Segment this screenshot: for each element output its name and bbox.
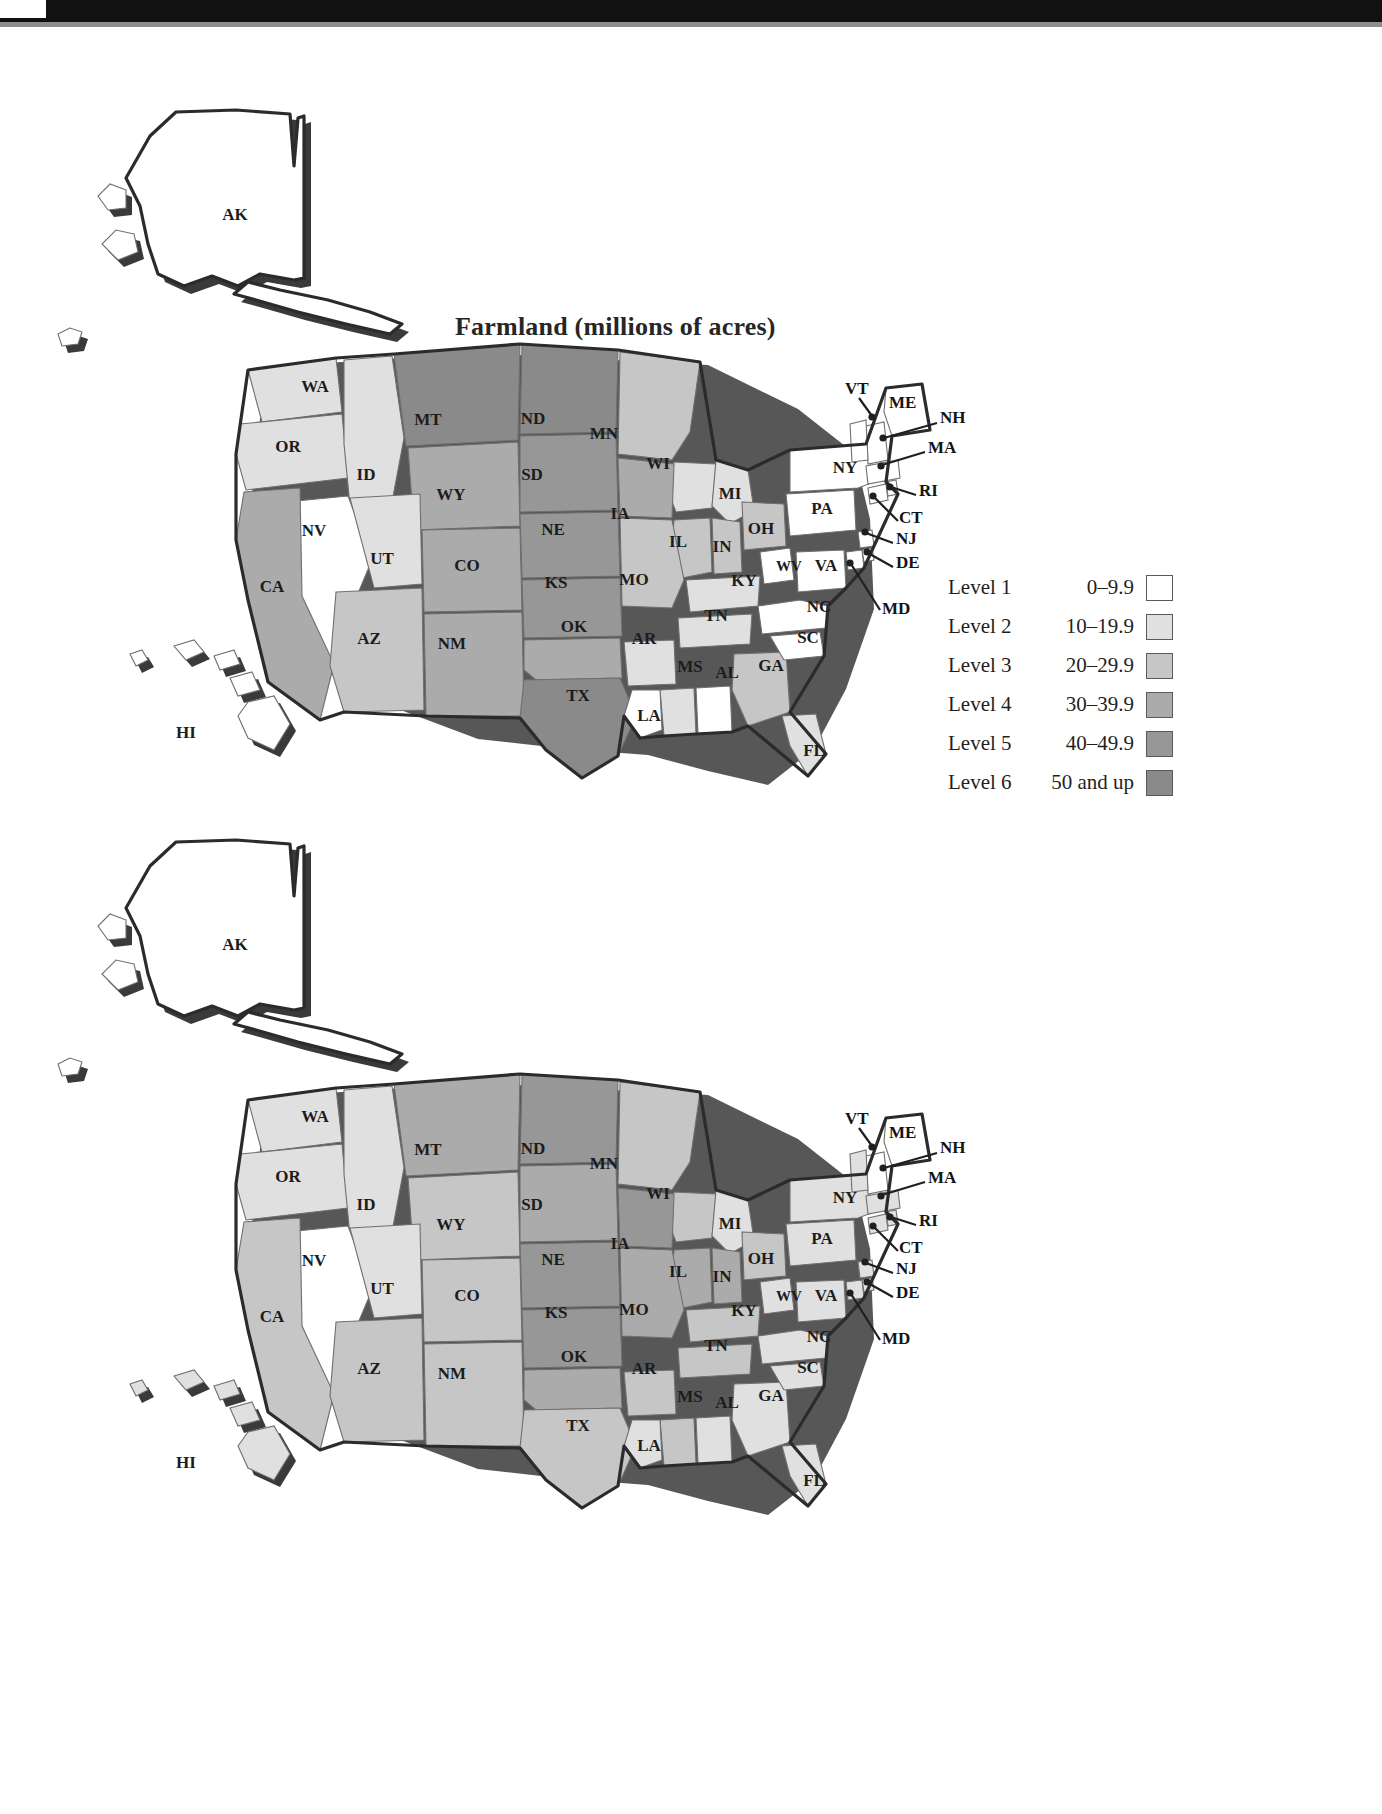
state-AK-landuse[interactable]: AK <box>58 840 409 1083</box>
svg-text:MI: MI <box>719 1214 742 1233</box>
state-label-CT: CT <box>899 1238 923 1257</box>
svg-text:NC: NC <box>807 1327 832 1346</box>
state-label-AK: AK <box>222 935 248 954</box>
svg-text:MS: MS <box>677 1387 703 1406</box>
svg-text:CO: CO <box>454 1286 480 1305</box>
svg-text:LA: LA <box>637 1436 661 1455</box>
svg-text:KY: KY <box>731 1301 757 1320</box>
svg-text:WY: WY <box>436 1215 465 1234</box>
svg-text:WA: WA <box>301 1107 329 1126</box>
svg-text:NE: NE <box>541 1250 565 1269</box>
figure-landuse: Land Used for Farming (%) AK <box>0 810 1382 1810</box>
svg-text:NM: NM <box>438 1364 466 1383</box>
svg-text:OR: OR <box>275 1167 301 1186</box>
state-label-DE: DE <box>896 1283 920 1302</box>
svg-text:OH: OH <box>748 1249 774 1268</box>
svg-text:WI: WI <box>646 1184 670 1203</box>
svg-text:VA: VA <box>815 1286 838 1305</box>
svg-text:PA: PA <box>811 1229 833 1248</box>
svg-text:AZ: AZ <box>357 1359 381 1378</box>
state-MT[interactable] <box>394 1074 520 1176</box>
state-VT[interactable] <box>850 1150 868 1192</box>
svg-text:ID: ID <box>357 1195 376 1214</box>
svg-text:NV: NV <box>302 1251 327 1270</box>
state-label-NJ: NJ <box>896 1259 917 1278</box>
svg-text:KS: KS <box>545 1303 568 1322</box>
state-label-NH: NH <box>940 1138 966 1157</box>
svg-text:CA: CA <box>260 1307 285 1326</box>
svg-text:SC: SC <box>797 1358 819 1377</box>
state-OK[interactable] <box>524 1368 622 1410</box>
state-AL[interactable] <box>696 1416 732 1464</box>
svg-text:NY: NY <box>833 1188 858 1207</box>
svg-text:OK: OK <box>561 1347 588 1366</box>
svg-text:TX: TX <box>566 1416 590 1435</box>
svg-text:GA: GA <box>758 1386 784 1405</box>
state-label-RI: RI <box>919 1211 938 1230</box>
svg-text:TN: TN <box>704 1336 728 1355</box>
state-label-MA: MA <box>928 1168 957 1187</box>
state-NE[interactable] <box>520 1242 620 1308</box>
svg-text:UT: UT <box>370 1279 394 1298</box>
svg-text:AR: AR <box>632 1359 657 1378</box>
state-label-MD: MD <box>882 1329 910 1348</box>
svg-text:IA: IA <box>611 1234 631 1253</box>
state-NH[interactable] <box>866 1152 888 1194</box>
svg-text:IL: IL <box>669 1262 687 1281</box>
state-AZ[interactable] <box>330 1318 424 1442</box>
svg-text:AL: AL <box>715 1393 739 1412</box>
state-NM[interactable] <box>424 1342 524 1446</box>
svg-text:SD: SD <box>521 1195 543 1214</box>
state-label-ME: ME <box>889 1123 916 1142</box>
svg-text:ND: ND <box>521 1139 546 1158</box>
svg-text:FL: FL <box>803 1471 825 1490</box>
svg-text:WV: WV <box>776 1288 802 1304</box>
svg-text:MT: MT <box>414 1140 442 1159</box>
state-MS[interactable] <box>660 1418 696 1466</box>
state-label-HI: HI <box>176 1453 196 1472</box>
svg-text:MO: MO <box>619 1300 648 1319</box>
choropleth-map-landuse: AK HI <box>0 0 1382 1000</box>
svg-text:IN: IN <box>713 1267 733 1286</box>
svg-text:MN: MN <box>590 1154 619 1173</box>
state-label-VT: VT <box>845 1109 869 1128</box>
